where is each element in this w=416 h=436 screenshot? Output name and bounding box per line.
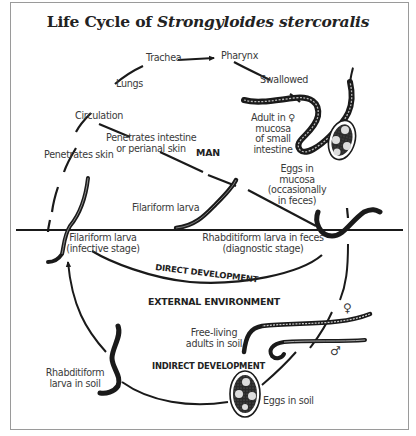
label-filariform-larva: Filariform larva bbox=[132, 203, 199, 214]
eggs-in-soil-illustration bbox=[230, 371, 260, 417]
label-penetrates-skin: Penetrates skin bbox=[44, 150, 113, 161]
region-label-external-environment: EXTERNAL ENVIRONMENT bbox=[148, 297, 280, 308]
label-rhabditiform-feces: Rhabditiform larva in feces (diagnostic … bbox=[202, 233, 324, 254]
label-eggs-in-soil: Eggs in soil bbox=[263, 396, 314, 407]
label-lungs: Lungs bbox=[116, 79, 143, 90]
label-pharynx: Pharynx bbox=[221, 51, 258, 62]
label-rhabditiform-soil: Rhabditiform larva in soil bbox=[44, 368, 106, 389]
label-circulation: Circulation bbox=[75, 111, 123, 122]
free-living-adults-illustration bbox=[244, 314, 370, 358]
label-free-living-adults: Free-living adults in soil bbox=[185, 328, 243, 349]
female-symbol-icon: ♀ bbox=[288, 112, 295, 123]
pathway-label-indirect: INDIRECT DEVELOPMENT bbox=[152, 361, 265, 372]
label-swallowed: Swallowed bbox=[260, 75, 308, 86]
label-adult-in-mucosa: Adult in ♀ mucosa of small intestine bbox=[243, 113, 303, 155]
diagram-title: Life Cycle of Strongyloides stercoralis bbox=[0, 12, 416, 31]
female-symbol-icon: ♀ bbox=[343, 303, 352, 314]
male-symbol-icon: ♂ bbox=[330, 346, 340, 357]
label-filariform-infective: Filariform larva (infective stage) bbox=[66, 233, 140, 254]
label-penetrates-intestine: Penetrates intestine or perianal skin bbox=[106, 133, 196, 154]
eggs-in-mucosa-illustration bbox=[324, 117, 359, 162]
label-eggs-in-mucosa: Eggs in mucosa (occasionally in feces) bbox=[266, 164, 328, 206]
label-trachea: Trachea bbox=[146, 53, 181, 64]
region-label-man: MAN bbox=[196, 148, 220, 159]
